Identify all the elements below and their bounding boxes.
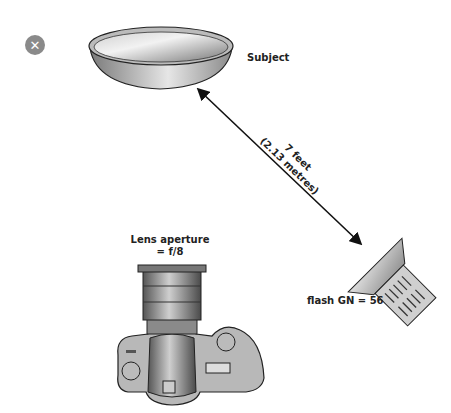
lens-aperture-label: Lens aperture = f/8 <box>120 234 220 258</box>
lens-aperture-title: Lens aperture <box>120 234 220 246</box>
flash-gn-label: flash GN = 56 <box>307 295 384 306</box>
distance-arrow <box>199 90 360 243</box>
lens-aperture-eq: = <box>157 246 169 257</box>
subject-label: Subject <box>247 52 289 63</box>
bowl-subject-illustration <box>89 27 233 89</box>
camera-illustration <box>118 265 264 405</box>
diagram-artwork <box>0 0 451 413</box>
flash-unit-illustration <box>348 238 448 338</box>
lens-aperture-value: f/8 <box>168 246 183 257</box>
